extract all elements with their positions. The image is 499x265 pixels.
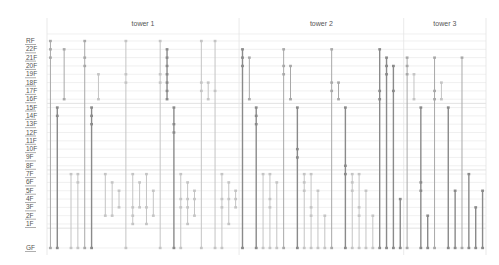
bar-stop-marker [310,247,313,249]
bar-stop-marker [269,247,272,249]
bar-stop-marker [426,214,429,216]
bar-stop-marker [454,247,457,249]
bar-stop-marker [97,98,100,100]
bar-stop-marker [413,98,416,100]
floor-range-bar [296,106,299,249]
bar-stop-marker [371,247,374,249]
bar-stop-marker [90,123,93,125]
bar-stop-marker [83,65,86,67]
bar-stop-marker [234,206,237,208]
bar-stop-marker [166,81,169,83]
floor-range-bar [227,181,230,225]
floor-range-bar [221,173,224,249]
bar-stop-marker [172,131,175,133]
bar-stop-marker [138,206,141,208]
bar-stop-marker [138,181,141,183]
floor-range-bar [481,190,484,250]
floor-range-bar [124,40,127,249]
bar-stop-marker [385,73,388,75]
bar-stop-marker [371,214,374,216]
bar-stop-marker [207,81,210,83]
floor-label: 1F [26,220,34,227]
floor-range-bar [255,106,258,249]
bar-stop-marker [118,190,121,192]
bar-stop-marker [207,98,210,100]
bar-stop-marker [289,65,292,67]
floor-label: 19F [26,70,37,77]
bar-stop-marker [118,206,121,208]
bar-stop-marker [83,40,86,42]
bar-stop-marker [358,206,361,208]
floor-range-bar [49,40,52,249]
bar-stop-marker [474,247,477,249]
bar-stop-marker [282,48,285,50]
bar-stop-marker [296,156,299,158]
bar-stop-marker [413,73,416,75]
bar-stop-marker [166,65,169,67]
bar-stop-marker [474,206,477,208]
floor-range-bar [317,190,320,250]
bar-stop-marker [269,198,272,200]
floor-range-bar [419,106,422,249]
bar-stop-marker [90,115,93,117]
bar-stop-marker [440,98,443,100]
bar-stop-marker [83,56,86,58]
bar-stop-marker [166,48,169,50]
floor-range-bar [179,173,182,249]
bar-stop-marker [399,198,402,200]
floor-range-bar [413,73,416,100]
bar-stop-marker [221,206,224,208]
bar-stop-marker [241,56,244,58]
bar-stop-marker [56,106,59,108]
bar-stop-marker [330,81,333,83]
bar-stop-marker [124,247,127,249]
bar-stop-marker [289,98,292,100]
bar-stop-marker [227,181,230,183]
bar-stop-marker [269,206,272,208]
floor-axis: GF1F2F3F4F5F6F7F8F9F10F11F12F13F14F15F16… [25,37,37,252]
bar-stop-marker [296,247,299,249]
floor-range-bar [248,56,251,100]
floor-range-bar [166,48,169,100]
bar-stop-marker [419,106,422,108]
bar-stop-marker [344,173,347,175]
bar-stop-marker [351,190,354,192]
floor-label: 15F [26,104,37,111]
floor-label: 3F [26,203,34,210]
bar-stop-marker [124,73,127,75]
bar-stop-marker [385,65,388,67]
bar-stop-marker [159,81,162,83]
floor-range-bar [262,173,265,249]
bar-stop-marker [186,198,189,200]
bar-stop-marker [419,181,422,183]
floor-range-bar [152,190,155,217]
bar-stop-marker [145,173,148,175]
bar-stop-marker [166,90,169,92]
bar-stop-marker [365,190,368,192]
bar-stop-marker [330,90,333,92]
floor-range-bar [351,173,354,249]
floor-range-bar [474,206,477,249]
bar-stop-marker [152,214,155,216]
bar-stop-marker [275,247,278,249]
bar-stop-marker [172,123,175,125]
floor-label: GF [26,244,35,251]
bar-stop-marker [262,173,265,175]
tower-label: tower 2 [310,20,333,27]
bar-stop-marker [221,198,224,200]
floor-label: 12F [26,129,37,136]
bar-stop-marker [406,65,409,67]
bar-stop-marker [467,247,470,249]
bar-stop-marker [426,247,429,249]
bar-stop-marker [337,98,340,100]
floor-range-bar [214,40,217,249]
floor-range-bar [70,173,73,249]
bar-stop-marker [351,247,354,249]
floor-range-bar [454,190,457,250]
bar-stop-marker [365,247,368,249]
bar-stop-marker [406,56,409,58]
bar-stop-marker [145,206,148,208]
bar-stop-marker [90,106,93,108]
bar-stop-marker [282,65,285,67]
bars [49,40,484,249]
